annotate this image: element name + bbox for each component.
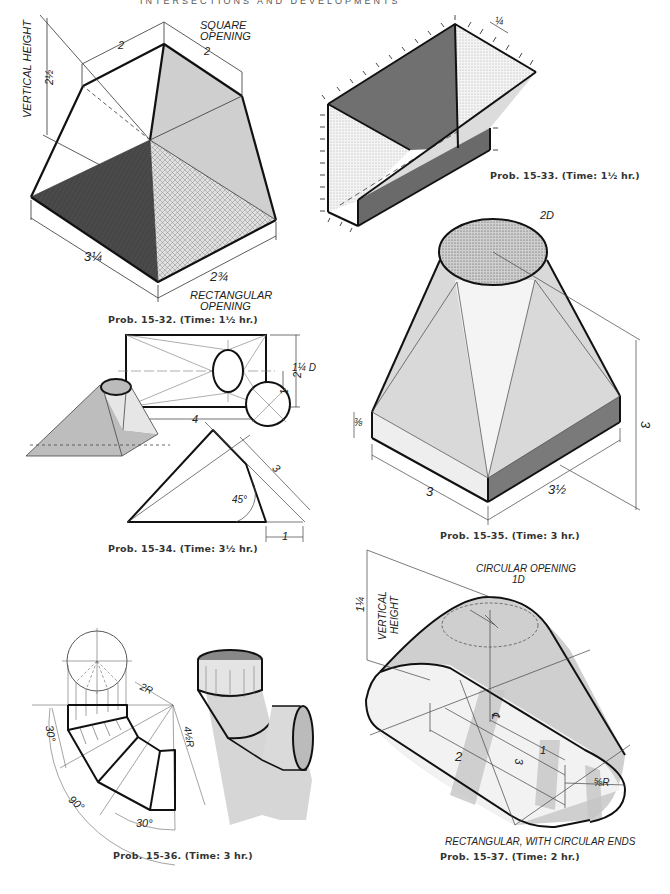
transition-drawing [340, 200, 670, 545]
plan-offset-label: 1 [279, 389, 290, 395]
dim-1-label: 1 [540, 745, 546, 756]
angle-label: 45° [232, 495, 247, 505]
caption-15-32: Prob. 15-32. (Time: 1½ hr.) [108, 314, 258, 325]
figure-15-36: 2R 4½R 30° 90° 30° Prob. 15-36. (Time: 3… [0, 620, 340, 894]
vertical-height-label-2: HEIGHT [390, 596, 400, 634]
figure-15-32: VERTICAL HEIGHT 2½ SQUARE OPENING 2 2 3¼… [0, 0, 320, 330]
caption-15-36: Prob. 15-36. (Time: 3 hr.) [113, 850, 253, 861]
base-b-label: 2¾ [210, 270, 228, 283]
base-a-label: 3¼ [84, 250, 102, 263]
elbow-pictorial [198, 650, 313, 825]
base-offset-label: 1 [282, 531, 288, 542]
caption-15-37: Prob. 15-37. (Time: 2 hr.) [440, 851, 580, 862]
thickness-label: ¼ [495, 17, 503, 27]
rect-ends-label: RECTANGULAR, WITH CIRCULAR ENDS [445, 837, 635, 847]
height-value-label: 1¼ [355, 597, 366, 612]
square-opening-label-2: OPENING [200, 31, 251, 42]
top-diameter-label: 2D [540, 210, 554, 221]
frustum-drawing [0, 0, 320, 320]
top-side-b-label: 2 [204, 46, 210, 57]
base-b-label: 3½ [548, 483, 566, 496]
segment-angle-top-label: 30° [43, 724, 57, 742]
dim-3-label: 3 [513, 758, 524, 764]
vertical-height-label: VERTICAL HEIGHT [22, 20, 33, 118]
vertical-height-label-1: VERTICAL [378, 591, 388, 640]
base-thickness-label: ⅜ [354, 418, 362, 428]
figure-15-34: 2 1 4 1¼ D 3 45° 1 Prob. 15-34. (Time: 3… [0, 330, 340, 600]
plan-view-drawing [0, 330, 340, 600]
segment-angle-bottom-label: 30° [136, 818, 153, 829]
end-radius-label: ⅝R [594, 778, 610, 788]
circular-opening-label-2: 1D [512, 575, 525, 585]
height-label: 3 [639, 421, 652, 428]
plan-width-label: 4 [192, 414, 198, 425]
top-side-a-label: 2 [118, 40, 124, 51]
base-a-label: 3 [426, 485, 433, 498]
centerline-label: ℄ [490, 712, 501, 719]
height-value-label: 2½ [44, 70, 55, 85]
circular-opening-label-1: CIRCULAR OPENING [476, 564, 576, 574]
caption-15-34: Prob. 15-34. (Time: 3½ hr.) [108, 543, 258, 554]
figure-15-37: 1¼ VERTICAL HEIGHT CIRCULAR OPENING 1D ℄… [340, 540, 670, 894]
textbook-page: INTERSECTIONS AND DEVELOPMENTS [0, 0, 670, 894]
circle-diameter-label: 1¼ D [292, 363, 316, 373]
figure-15-35: 2D ⅜ 3 3½ 3 Prob. 15-35. (Time: 3 hr.) [340, 200, 670, 545]
caption-15-33: Prob. 15-33. (Time: 1½ hr.) [490, 170, 640, 181]
rect-opening-label-2: OPENING [200, 301, 251, 312]
dim-2-label: 2 [455, 750, 462, 763]
